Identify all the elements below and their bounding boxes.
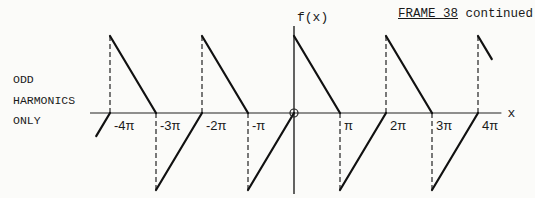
x-tick-label: -4π — [114, 118, 135, 133]
function-segment — [96, 113, 110, 136]
function-segment — [478, 36, 492, 59]
x-tick-label: -2π — [206, 118, 227, 133]
function-segment — [386, 36, 432, 113]
y-axis-label: f(x) — [297, 10, 328, 25]
function-segment — [202, 36, 248, 113]
function-plot: xf(x)-4π-3π-2π-ππ2π3π4π — [0, 0, 535, 198]
x-axis-label: x — [507, 106, 515, 121]
function-segment — [110, 36, 156, 113]
x-tick-label: π — [344, 118, 353, 133]
x-tick-label: -π — [252, 118, 265, 133]
function-segment — [294, 36, 340, 113]
x-tick-label: 2π — [390, 118, 406, 133]
x-tick-label: 3π — [436, 118, 452, 133]
x-tick-label: -3π — [160, 118, 181, 133]
x-tick-label: 4π — [482, 118, 498, 133]
